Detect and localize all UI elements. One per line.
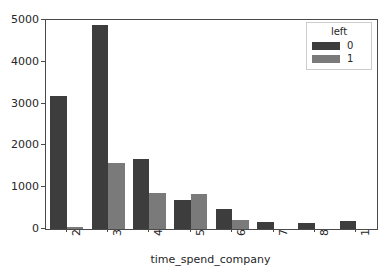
bar[interactable] (133, 159, 150, 229)
x-tick-label: 5 (195, 229, 206, 236)
legend: left 01 (306, 22, 372, 70)
clipped-top-text (8, 0, 88, 7)
y-tick-label: 1000 (0, 181, 39, 192)
bar[interactable] (149, 193, 166, 229)
legend-item[interactable]: 0 (312, 39, 366, 52)
chart-figure: 010002000300040005000 234567810 time_spe… (0, 0, 387, 272)
legend-item[interactable]: 1 (312, 52, 366, 65)
bar[interactable] (108, 163, 125, 229)
y-tick-label: 4000 (0, 56, 39, 67)
bar[interactable] (298, 223, 315, 229)
bar[interactable] (92, 25, 109, 229)
bar[interactable] (67, 227, 84, 229)
legend-label: 0 (347, 41, 353, 51)
bar-group (133, 20, 166, 229)
y-tick-label: 3000 (0, 98, 39, 109)
legend-swatch (312, 55, 340, 63)
bar[interactable] (216, 209, 233, 229)
x-axis-label: time_spend_company (45, 254, 376, 266)
x-tick-label: 3 (112, 229, 123, 236)
legend-swatch (312, 42, 340, 50)
y-tick-label: 5000 (0, 14, 39, 25)
bar[interactable] (232, 220, 249, 229)
legend-rows: 01 (312, 39, 366, 65)
legend-title: left (312, 26, 366, 37)
bar[interactable] (191, 194, 208, 229)
x-tick-label: 7 (278, 229, 289, 236)
x-tick-label: 2 (71, 229, 82, 236)
x-tick-label: 4 (153, 229, 164, 236)
bar[interactable] (257, 222, 274, 229)
bar[interactable] (50, 96, 67, 229)
bar-group (174, 20, 207, 229)
legend-label: 1 (347, 54, 353, 64)
bar[interactable] (340, 221, 357, 229)
bar[interactable] (174, 200, 191, 229)
x-tick-label: 6 (236, 229, 247, 236)
bar-group (50, 20, 83, 229)
y-tick-label: 0 (0, 223, 39, 234)
bar-group (257, 20, 290, 229)
x-tick-label: 8 (319, 229, 330, 236)
bar-group (216, 20, 249, 229)
bar-group (92, 20, 125, 229)
y-tick-label: 2000 (0, 139, 39, 150)
